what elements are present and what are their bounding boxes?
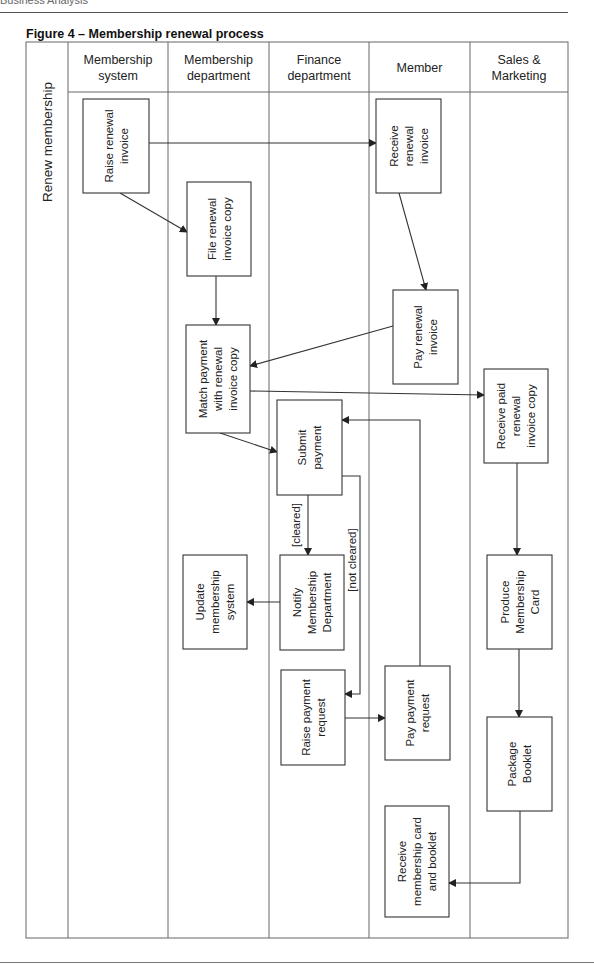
- activity-label: membership: [209, 570, 221, 633]
- flow-raise-to-file: [120, 193, 187, 232]
- activity-label: Membership: [306, 571, 318, 634]
- activity-label: invoice: [427, 319, 439, 355]
- flow-pay-to-match: [250, 326, 393, 366]
- lane-header-membership-system: Membership: [84, 53, 153, 67]
- activity-notify-membership-department[interactable]: NotifyMembershipDepartment: [280, 555, 344, 650]
- activity-label: request: [419, 693, 431, 732]
- activity-label: Membership: [514, 570, 526, 633]
- activity-label: Submit: [296, 429, 308, 466]
- activity-label: Raise renewal: [103, 110, 115, 183]
- activity-label: invoice: [418, 128, 430, 164]
- activity-label: Update: [194, 583, 206, 620]
- activity-label: payment: [311, 425, 323, 470]
- pool-label: Renew membership: [40, 82, 55, 202]
- activity-label: Package: [506, 742, 518, 787]
- guard-label: [cleared]: [290, 503, 302, 547]
- activity-label: Card: [529, 590, 541, 615]
- activity-raise-renewal-invoice[interactable]: Raise renewalinvoice: [83, 99, 149, 193]
- activity-label: renewal: [403, 126, 415, 166]
- flow-match-to-submit: [220, 433, 277, 452]
- activity-label: invoice: [118, 128, 130, 164]
- flow-receive-to-pay: [399, 193, 426, 290]
- activity-label: Receive: [396, 841, 408, 883]
- activity-label: and booklet: [426, 831, 438, 891]
- flow-match-to-receive-paid: [250, 391, 484, 395]
- activity-label: Pay renewal: [412, 305, 424, 368]
- activity-label: request: [315, 698, 327, 737]
- activity-label: Department: [321, 572, 333, 633]
- activity-label: with renewal: [212, 347, 224, 412]
- activity-update-membership-system[interactable]: Updatemembershipsystem: [183, 555, 247, 649]
- activity-receive-paid-renewal-invoice-copy[interactable]: Receive paidrenewalinvoice copy: [484, 369, 548, 463]
- activity-raise-payment-request[interactable]: Raise paymentrequest: [281, 670, 345, 765]
- lane-header-finance-department: department: [287, 69, 351, 83]
- activity-label: Raise payment: [300, 678, 312, 756]
- lane-header-member: Member: [397, 61, 443, 75]
- activity-label: Receive paid: [495, 383, 507, 449]
- activity-label: renewal: [510, 396, 522, 436]
- activity-receive-membership-card-and-booklet[interactable]: Receivemembership cardand booklet: [385, 806, 449, 917]
- lane-header-sales-marketing: Sales &: [497, 53, 541, 67]
- activity-label: invoice copy: [525, 384, 537, 448]
- activity-package-booklet[interactable]: PackageBooklet: [487, 717, 552, 811]
- lane-header-membership-department: department: [187, 69, 251, 83]
- activity-label: Pay payment: [404, 679, 416, 747]
- lane-header-membership-department: Membership: [184, 53, 253, 67]
- activity-label: invoice copy: [221, 197, 233, 261]
- activity-pay-renewal-invoice[interactable]: Pay renewalinvoice: [393, 290, 458, 384]
- activity-label: Produce: [499, 581, 511, 624]
- activity-label: membership card: [411, 817, 423, 906]
- activity-label: Booklet: [521, 744, 533, 783]
- flow-package-to-receive-card: [449, 811, 520, 883]
- activity-receive-renewal-invoice[interactable]: Receiverenewalinvoice: [376, 99, 441, 193]
- lane-header-finance-department: Finance: [297, 53, 342, 67]
- activity-pay-payment-request[interactable]: Pay paymentrequest: [385, 666, 450, 760]
- activity-label: File renewal: [206, 198, 218, 260]
- lane-header-sales-marketing: Marketing: [492, 69, 547, 83]
- activity-file-renewal-invoice-copy[interactable]: File renewalinvoice copy: [187, 182, 251, 276]
- activity-label: Receive: [388, 125, 400, 167]
- activity-label: Match payment: [197, 339, 209, 418]
- activity-label: invoice copy: [227, 347, 239, 411]
- activity-submit-payment[interactable]: Submitpayment: [277, 400, 342, 495]
- activity-label: system: [224, 584, 236, 620]
- activity-label: Notify: [291, 588, 303, 618]
- lane-header-membership-system: system: [98, 69, 138, 83]
- guard-label: [not cleared]: [346, 528, 358, 591]
- swimlane-diagram: Renew membershipMembershipsystemMembersh…: [0, 0, 594, 964]
- activity-produce-membership-card[interactable]: ProduceMembershipCard: [487, 555, 552, 649]
- activity-match-payment[interactable]: Match paymentwith renewalinvoice copy: [186, 325, 250, 433]
- footer-rule: [0, 962, 594, 963]
